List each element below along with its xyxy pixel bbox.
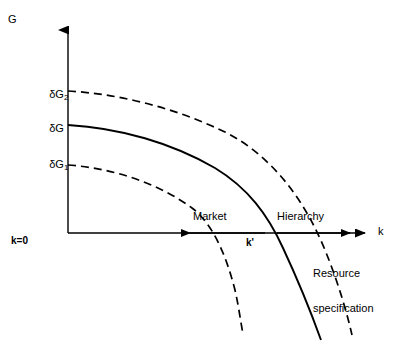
curve-label-delta-g-1: δG1	[37, 147, 68, 184]
curve-label-delta-g-1-subscript: 1	[64, 163, 68, 172]
k-prime-label: k'	[246, 238, 254, 249]
resource-specification-line-1: Resource	[313, 268, 374, 280]
resource-specification-note: Resource specification	[313, 244, 374, 339]
curve-label-delta-g-1-base: δG	[49, 158, 64, 170]
market-region-label: Market	[193, 211, 227, 223]
curve-label-delta-g-base: δG	[49, 122, 64, 134]
curve-label-delta-g-2-subscript: 2	[64, 93, 68, 102]
x-axis-label: k	[378, 226, 384, 238]
resource-specification-line-2: specification	[313, 303, 374, 315]
curve-label-delta-g-2-base: δG	[49, 88, 64, 100]
curve-delta-g-1	[68, 165, 243, 334]
hierarchy-region-label: Hierarchy	[277, 211, 324, 223]
x-origin-label: k=0	[11, 236, 28, 247]
curve-label-delta-g-2: δG2	[37, 77, 68, 114]
y-axis-label: G	[8, 14, 17, 26]
chart-figure: G k k=0 k' δG2 δG δG1 Market Hierarchy R…	[0, 0, 393, 346]
curve-label-delta-g: δG	[37, 111, 64, 147]
